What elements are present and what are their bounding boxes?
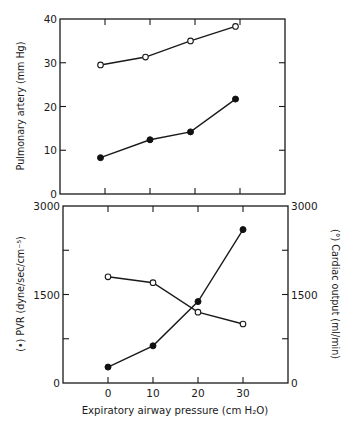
filled-circle-marker xyxy=(105,364,111,370)
y-tick-label: 3000 xyxy=(33,200,60,212)
right-y-tick-label: 1500 xyxy=(291,289,318,301)
bottom-panel-pvr-cardiac-output: 015003000 015003000 0102030 (•) PVR (dyn… xyxy=(15,200,341,416)
series-line xyxy=(101,99,236,158)
open-circle-marker xyxy=(150,280,156,286)
y-tick-label: 30 xyxy=(44,57,57,69)
x-tick-label: 0 xyxy=(105,387,112,399)
open-circle-marker xyxy=(98,62,104,68)
x-tick-label: 20 xyxy=(191,387,204,399)
open-circle-marker xyxy=(188,38,194,44)
series-line xyxy=(108,230,243,367)
y-tick-label: 40 xyxy=(44,13,57,25)
top-panel-pulmonary-artery: 010203040 Pulmonary artery (mm Hg) xyxy=(15,13,285,200)
series-line xyxy=(101,26,236,65)
filled-circle-marker xyxy=(98,155,104,161)
top-x-axis-ticks xyxy=(105,19,240,194)
open-circle-marker xyxy=(143,54,149,60)
y-tick-label: 10 xyxy=(44,144,57,156)
open-circle-marker xyxy=(240,321,246,327)
filled-circle-marker xyxy=(147,137,153,143)
bottom-x-axis-ticks: 0102030 xyxy=(105,206,250,399)
x-tick-label: 10 xyxy=(146,387,159,399)
bottom-right-y-axis-title: (°) Cardiac output (ml/min) xyxy=(330,229,341,359)
top-y-axis-title: Pulmonary artery (mm Hg) xyxy=(15,42,26,171)
top-plot-frame xyxy=(60,19,285,194)
filled-circle-marker xyxy=(195,299,201,305)
filled-circle-marker xyxy=(188,129,194,135)
filled-circle-marker xyxy=(240,227,246,233)
filled-circle-marker xyxy=(233,96,239,102)
y-tick-label: 1500 xyxy=(33,289,60,301)
bottom-plot-frame xyxy=(63,206,288,383)
top-series xyxy=(98,24,239,161)
bottom-left-y-axis-title: (•) PVR (dyne/sec/cm⁻⁵) xyxy=(15,236,26,352)
series-line xyxy=(108,277,243,324)
top-y-axis-ticks: 010203040 xyxy=(44,13,285,200)
filled-circle-marker xyxy=(150,343,156,349)
open-circle-marker xyxy=(233,24,239,30)
y-tick-label: 0 xyxy=(50,188,57,200)
figure: 010203040 Pulmonary artery (mm Hg) 01500… xyxy=(0,0,353,431)
x-axis-title: Expiratory airway pressure (cm H₂O) xyxy=(82,405,269,416)
x-tick-label: 30 xyxy=(236,387,249,399)
chart-canvas: 010203040 Pulmonary artery (mm Hg) 01500… xyxy=(0,0,353,431)
bottom-series xyxy=(105,227,246,370)
y-tick-label: 0 xyxy=(53,377,60,389)
open-circle-marker xyxy=(195,309,201,315)
y-tick-label: 20 xyxy=(44,101,57,113)
right-y-tick-label: 3000 xyxy=(291,200,318,212)
open-circle-marker xyxy=(105,274,111,280)
right-y-tick-label: 0 xyxy=(291,377,298,389)
